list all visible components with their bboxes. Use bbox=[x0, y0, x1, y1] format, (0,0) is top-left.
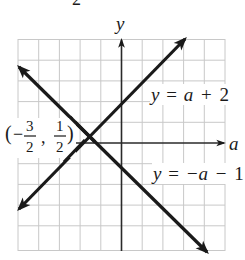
paren-open: ( bbox=[5, 122, 12, 145]
x-sign: − bbox=[13, 124, 23, 144]
y-denominator: 2 bbox=[56, 139, 64, 155]
eq1-equals: = bbox=[166, 84, 177, 105]
eq2-one: 1 bbox=[234, 163, 244, 184]
eq1-two: 2 bbox=[219, 84, 229, 105]
x-axis-label: a bbox=[229, 133, 239, 154]
y-numerator: 1 bbox=[56, 118, 64, 134]
y-axis-label: y bbox=[114, 13, 125, 34]
paren-close: ) bbox=[67, 122, 74, 145]
eq1-y: y bbox=[149, 84, 160, 105]
eq1-plus: + bbox=[201, 84, 212, 105]
equation-label-y-equals-a-plus-2: y = a + 2 bbox=[149, 84, 229, 105]
x-numerator: 3 bbox=[26, 118, 34, 134]
eq2-minus: − bbox=[216, 163, 227, 184]
coordinate-graph: 2 y a y = a + 2 bbox=[0, 0, 245, 260]
eq2-y: y bbox=[151, 163, 162, 184]
equation-label-y-equals-neg-a-minus-1: y = −a − 1 bbox=[151, 163, 244, 184]
intersection-label: ( − 3 2 , 1 2 ) bbox=[4, 118, 76, 158]
comma: , bbox=[41, 127, 46, 147]
eq2-equals: = bbox=[168, 163, 179, 184]
eq2-neg-a: −a bbox=[186, 163, 208, 184]
eq1-a: a bbox=[184, 84, 194, 105]
cropped-caption-fragment: 2 bbox=[72, 0, 81, 9]
x-denominator: 2 bbox=[26, 139, 34, 155]
svg-text:y = −a −: y = −a − 1 bbox=[151, 163, 244, 184]
